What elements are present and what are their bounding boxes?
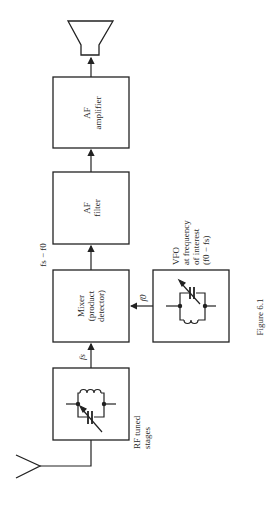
af-filter-label-1: AF [82, 202, 92, 214]
af-amplifier-label-2: amplifier [93, 97, 103, 130]
speaker-icon [68, 21, 113, 55]
rf-stages-label-1: RF tuned [132, 415, 142, 449]
rf-lc-tank-icon [66, 390, 116, 432]
vfo-label-3: of interest [191, 228, 201, 265]
antenna-icon [16, 455, 40, 478]
figure-caption: Figure 6.1 [255, 299, 265, 336]
mixer-label-3: detector) [96, 290, 106, 322]
vfo-label-2: at frequency [181, 220, 191, 265]
mixer-label-2: (product [86, 290, 96, 321]
antenna-feed-line [40, 440, 91, 466]
vfo-label-1: VFO [171, 246, 181, 265]
vfo-block [153, 270, 229, 342]
signal-label-f0: f0 [138, 294, 148, 302]
signal-label-fs: fs [77, 354, 87, 361]
rf-tuned-stages-block [53, 368, 129, 440]
af-amplifier-label-1: AF [82, 107, 92, 119]
block-diagram: AF amplifier AF filter Mixer (product de… [0, 0, 279, 507]
rf-stages-label-2: stages [142, 427, 152, 449]
vfo-label-4: (f0 − fs) [201, 235, 211, 265]
signal-label-fs-minus-f0: fs − f0 [38, 243, 48, 267]
mixer-label-1: Mixer [76, 295, 86, 317]
af-filter-label-2: filter [92, 199, 102, 217]
vfo-lc-tank-icon [166, 280, 216, 324]
